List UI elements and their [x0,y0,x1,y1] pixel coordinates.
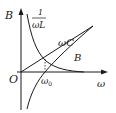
omega-c-label: ωC [58,37,74,48]
diagram-canvas: B O ω 1 ωL ωC B ω0 [0,0,116,113]
inverse-omega-l-numerator: 1 [38,8,43,17]
y-axis-label: B [4,9,13,22]
y-axis-arrow-icon [19,8,24,15]
origin-label: O [9,73,18,86]
inverse-omega-l-denominator: ωL [32,20,45,30]
omega0-label: ω0 [41,76,52,87]
x-axis-arrow-icon [101,70,108,75]
omega0-subscript: 0 [48,80,52,87]
x-axis-label: ω [97,78,105,89]
total-b-label: B [73,52,81,63]
